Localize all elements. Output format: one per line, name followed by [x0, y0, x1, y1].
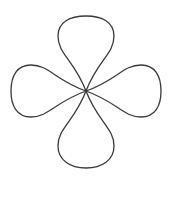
rose-curve-drawing: Four Petal Rose Curve [0, 0, 171, 201]
figure-canvas: Four Petal Rose Curve [0, 0, 171, 201]
canvas-background [0, 0, 171, 201]
